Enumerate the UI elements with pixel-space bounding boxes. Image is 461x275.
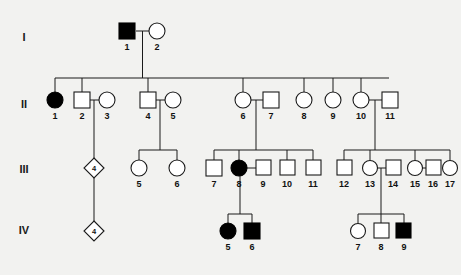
individual-id-III-14: 14 — [388, 179, 398, 189]
individual-symbol-II-7[interactable] — [263, 92, 279, 108]
individual-symbol-II-5[interactable] — [165, 92, 181, 108]
individual-symbol-II-4[interactable] — [140, 92, 156, 108]
individual-symbol-I-1[interactable] — [119, 23, 135, 39]
individual-id-II-2: 2 — [79, 111, 84, 121]
individual-id-IV-9: 9 — [401, 242, 406, 252]
individual-id-III-5: 5 — [136, 179, 141, 189]
individual-id-II-4: 4 — [145, 111, 150, 121]
generation-label-I: I — [22, 31, 25, 43]
individual-symbol-II-6[interactable] — [235, 92, 251, 108]
individual-id-III-12: 12 — [339, 179, 349, 189]
individual-id-II-5: 5 — [170, 111, 175, 121]
generation-label-II: II — [21, 98, 27, 110]
individual-id-IV-6: 6 — [249, 242, 254, 252]
individual-symbol-III-10[interactable] — [280, 160, 295, 175]
individual-symbol-II-8[interactable] — [296, 92, 312, 108]
individual-id-II-3: 3 — [104, 111, 109, 121]
individual-symbol-III-13[interactable] — [363, 161, 378, 176]
individual-id-II-1: 1 — [52, 111, 57, 121]
individual-symbol-IV-9[interactable] — [396, 223, 411, 238]
individual-symbol-III-9[interactable] — [256, 160, 271, 175]
individual-symbol-IV-7[interactable] — [351, 224, 366, 239]
individual-symbol-IV-5[interactable] — [220, 223, 236, 239]
individual-id-IV-5: 5 — [225, 242, 230, 252]
individual-id-IV-7: 7 — [355, 242, 360, 252]
individual-symbol-III-16[interactable] — [426, 160, 441, 175]
individual-id-III-15: 15 — [410, 179, 420, 189]
individual-id-III-11: 11 — [308, 179, 318, 189]
individual-symbol-III-5[interactable] — [131, 160, 147, 176]
individual-id-II-6: 6 — [240, 111, 245, 121]
generation-label-III: III — [19, 163, 28, 175]
pedigree-canvas: I II III IV 1 2 1 2 3 4 5 6 — [0, 0, 461, 275]
individual-id-III-9: 9 — [260, 179, 265, 189]
individual-symbol-III-6[interactable] — [169, 160, 185, 176]
generation-label-IV: IV — [19, 224, 30, 236]
individual-id-III-17: 17 — [445, 179, 455, 189]
individual-symbol-III-15[interactable] — [408, 161, 423, 176]
pedigree-chart: I II III IV 1 2 1 2 3 4 5 6 — [0, 0, 461, 275]
individual-id-III-8: 8 — [236, 179, 241, 189]
individual-id-III-16: 16 — [428, 179, 438, 189]
individual-symbol-III-7[interactable] — [206, 160, 222, 176]
individual-symbol-II-10[interactable] — [353, 92, 369, 108]
individual-id-III-6: 6 — [174, 179, 179, 189]
individual-symbol-I-2[interactable] — [149, 23, 165, 39]
individual-id-III-13: 13 — [365, 179, 375, 189]
individual-symbol-IV-8[interactable] — [374, 223, 389, 238]
individual-symbol-II-9[interactable] — [325, 92, 341, 108]
individual-symbol-II-3[interactable] — [99, 92, 115, 108]
individual-id-II-7: 7 — [268, 111, 273, 121]
individual-symbol-II-2[interactable] — [74, 92, 90, 108]
individual-symbol-III-8[interactable] — [231, 160, 247, 176]
individual-id-II-8: 8 — [301, 111, 306, 121]
individual-symbol-III-12[interactable] — [337, 160, 352, 175]
individual-id-III-10: 10 — [282, 179, 292, 189]
individual-symbol-III-11[interactable] — [306, 160, 321, 175]
individual-id-II-9: 9 — [330, 111, 335, 121]
individual-symbol-II-11[interactable] — [382, 92, 398, 108]
individual-symbol-II-1[interactable] — [47, 92, 63, 108]
individual-id-IV-8: 8 — [378, 242, 383, 252]
individual-id-II-11: 11 — [385, 111, 395, 121]
individual-symbol-III-17[interactable] — [443, 161, 458, 176]
individual-id-I-1: 1 — [124, 42, 129, 52]
individual-symbol-IV-6[interactable] — [244, 223, 260, 239]
individual-id-I-2: 2 — [154, 42, 159, 52]
individual-id-III-7: 7 — [211, 179, 216, 189]
individual-symbol-III-14[interactable] — [386, 160, 401, 175]
individual-id-II-10: 10 — [356, 111, 366, 121]
